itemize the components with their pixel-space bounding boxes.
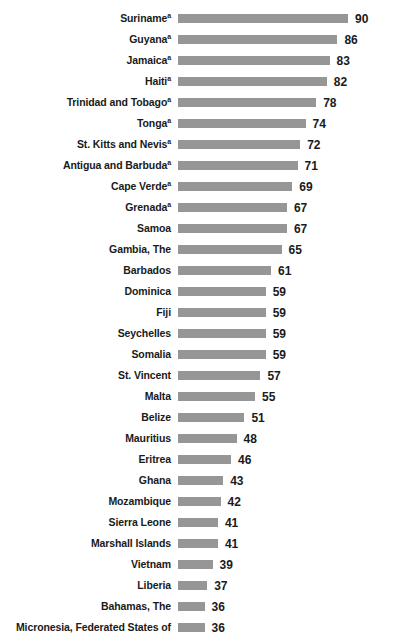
value-label: 48 — [244, 433, 257, 445]
bar — [178, 560, 213, 569]
bar-row: Bahamas, The36 — [0, 596, 420, 617]
bar-row: Antigua and Barbudaa71 — [0, 155, 420, 176]
category-label: St. Kitts and Nevisa — [0, 139, 178, 150]
category-label-text: Cape Verde — [111, 180, 167, 192]
footnote-marker: a — [167, 159, 171, 166]
bar — [178, 224, 287, 233]
category-label: Haitia — [0, 76, 178, 87]
bar-zone: 59 — [178, 328, 420, 340]
category-label: Malta — [0, 391, 178, 402]
category-label-text: Trinidad and Tobago — [67, 96, 168, 108]
value-label: 39 — [220, 559, 233, 571]
category-label: Sierra Leone — [0, 517, 178, 528]
bar-zone: 55 — [178, 391, 420, 403]
category-label-text: Haiti — [145, 75, 167, 87]
bar — [178, 392, 255, 401]
category-label-text: Mauritius — [125, 432, 171, 444]
category-label-text: St. Vincent — [118, 369, 171, 381]
category-label-text: Barbados — [123, 264, 171, 276]
category-label-text: Micronesia, Federated States of — [16, 621, 171, 633]
category-label-text: Somalia — [131, 348, 171, 360]
bar-row: Haitia82 — [0, 71, 420, 92]
bar — [178, 623, 205, 632]
category-label-text: Liberia — [137, 579, 171, 591]
bar — [178, 581, 207, 590]
bar-zone: 59 — [178, 349, 420, 361]
bar-zone: 67 — [178, 223, 420, 235]
bar-row: Tongaa74 — [0, 113, 420, 134]
bar-row: Dominica59 — [0, 281, 420, 302]
category-label: Trinidad and Tobagoa — [0, 97, 178, 108]
value-label: 36 — [212, 622, 225, 634]
category-label-text: Dominica — [125, 285, 171, 297]
footnote-marker: a — [167, 201, 171, 208]
category-label: Fiji — [0, 307, 178, 318]
category-label: Seychelles — [0, 328, 178, 339]
bar-zone: 57 — [178, 370, 420, 382]
value-label: 74 — [313, 118, 326, 130]
bar-row: Liberia37 — [0, 575, 420, 596]
value-label: 41 — [225, 517, 238, 529]
value-label: 59 — [273, 328, 286, 340]
value-label: 71 — [305, 160, 318, 172]
category-label: Eritrea — [0, 454, 178, 465]
bar-zone: 86 — [178, 34, 420, 46]
value-label: 72 — [307, 139, 320, 151]
bar-zone: 61 — [178, 265, 420, 277]
bar-row: Cape Verdea69 — [0, 176, 420, 197]
value-label: 78 — [323, 97, 336, 109]
bar — [178, 182, 292, 191]
bar-zone: 36 — [178, 601, 420, 613]
category-label-text: Bahamas, The — [101, 600, 171, 612]
value-label: 57 — [267, 370, 280, 382]
bar-zone: 41 — [178, 517, 420, 529]
category-label-text: Grenada — [125, 201, 167, 213]
bar-zone: 59 — [178, 286, 420, 298]
category-label-text: Eritrea — [138, 453, 171, 465]
bar — [178, 413, 244, 422]
bar — [178, 140, 300, 149]
bar — [178, 161, 298, 170]
bar-zone: 39 — [178, 559, 420, 571]
bar-row: Eritrea46 — [0, 449, 420, 470]
category-label-text: Antigua and Barbuda — [63, 159, 167, 171]
bar-row: Surinamea90 — [0, 8, 420, 29]
bar — [178, 14, 348, 23]
category-label: Micronesia, Federated States of — [0, 622, 178, 633]
bar-zone: 37 — [178, 580, 420, 592]
bar — [178, 518, 218, 527]
bar-zone: 69 — [178, 181, 420, 193]
bar — [178, 371, 260, 380]
category-label: Liberia — [0, 580, 178, 591]
bar-row: Samoa67 — [0, 218, 420, 239]
footnote-marker: a — [167, 12, 171, 19]
bar-row: Marshall Islands41 — [0, 533, 420, 554]
bar — [178, 203, 287, 212]
bar — [178, 245, 282, 254]
category-label: Belize — [0, 412, 178, 423]
bar — [178, 329, 266, 338]
bar-row: Vietnam39 — [0, 554, 420, 575]
bar — [178, 434, 237, 443]
value-label: 65 — [289, 244, 302, 256]
value-label: 59 — [273, 349, 286, 361]
bar-zone: 36 — [178, 622, 420, 634]
category-label: St. Vincent — [0, 370, 178, 381]
category-label-text: Suriname — [120, 12, 167, 24]
footnote-marker: a — [167, 117, 171, 124]
bar — [178, 287, 266, 296]
bar-row: St. Vincent57 — [0, 365, 420, 386]
category-label-text: Gambia, The — [109, 243, 171, 255]
category-label: Marshall Islands — [0, 538, 178, 549]
category-label: Barbados — [0, 265, 178, 276]
value-label: 82 — [334, 76, 347, 88]
bar — [178, 539, 218, 548]
value-label: 51 — [251, 412, 264, 424]
category-label: Somalia — [0, 349, 178, 360]
value-label: 37 — [214, 580, 227, 592]
category-label-text: Vietnam — [131, 558, 171, 570]
category-label-text: Malta — [145, 390, 171, 402]
bar-zone: 42 — [178, 496, 420, 508]
value-label: 43 — [230, 475, 243, 487]
footnote-marker: a — [167, 75, 171, 82]
